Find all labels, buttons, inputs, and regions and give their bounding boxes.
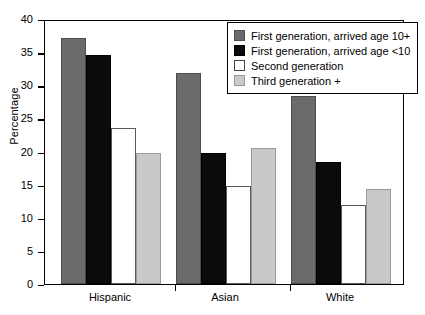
legend-item: First generation, arrived age 10+ <box>234 28 410 43</box>
y-tick-label: 15 <box>0 179 33 191</box>
legend-swatch-icon <box>234 60 245 71</box>
x-axis-group-label: Hispanic <box>89 291 131 303</box>
x-axis-tick-mark <box>175 285 176 291</box>
bar <box>61 38 86 284</box>
bar <box>176 73 201 284</box>
x-axis-tick-mark <box>290 285 291 291</box>
y-tick-label: 20 <box>0 146 33 158</box>
bar-chart: Percentage 0510152025303540 HispanicAsia… <box>0 0 425 315</box>
legend-label: First generation, arrived age <10 <box>251 45 410 57</box>
y-tick-label: 25 <box>0 112 33 124</box>
y-tick-label: 5 <box>0 245 33 257</box>
bar <box>86 55 111 284</box>
bar <box>316 162 341 284</box>
legend-item: First generation, arrived age <10 <box>234 43 410 58</box>
x-axis-group-label: Asian <box>211 291 239 303</box>
legend-swatch-icon <box>234 45 245 56</box>
y-tick-label: 40 <box>0 13 33 25</box>
y-tick-label: 30 <box>0 79 33 91</box>
legend-label: Third generation + <box>251 75 341 87</box>
bar <box>291 96 316 284</box>
y-tick-label: 35 <box>0 46 33 58</box>
legend-item: Second generation <box>234 58 410 73</box>
bar <box>366 189 391 284</box>
bar <box>341 205 366 284</box>
x-axis-group-label: White <box>326 291 354 303</box>
y-tick-label: 0 <box>0 278 33 290</box>
legend: First generation, arrived age 10+First g… <box>227 22 418 94</box>
legend-label: First generation, arrived age 10+ <box>251 30 410 42</box>
bar <box>201 153 226 284</box>
bar <box>111 128 136 284</box>
bar <box>226 186 251 284</box>
legend-swatch-icon <box>234 75 245 86</box>
legend-item: Third generation + <box>234 73 410 88</box>
legend-label: Second generation <box>251 60 343 72</box>
y-tick-label: 10 <box>0 212 33 224</box>
legend-swatch-icon <box>234 30 245 41</box>
bar <box>136 153 161 284</box>
bar <box>251 148 276 284</box>
y-tick-mark <box>38 285 44 286</box>
